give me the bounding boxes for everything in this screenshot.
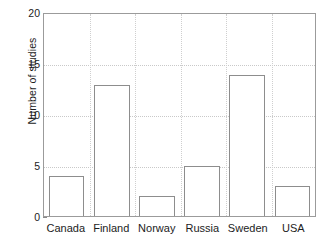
bar-norway[interactable] [139,196,175,216]
bar-chart-figure: Number of studies 20 15 10 5 0 Canada Fi… [0,0,332,248]
x-tick-label-russia: Russia [180,222,226,235]
y-tick-mark-0 [43,217,47,218]
y-tick-label-20: 20 [10,8,40,18]
y-tick-label-15: 15 [10,59,40,69]
x-tick-label-norway: Norway [134,222,180,235]
bar-usa[interactable] [275,186,311,216]
bar-russia[interactable] [184,166,220,217]
gridline-vertical-4 [226,14,227,216]
bar-sweden[interactable] [229,75,265,216]
gridline-horizontal-10 [44,116,315,117]
x-tick-label-usa: USA [271,222,317,235]
gridline-vertical-1 [90,14,91,216]
y-tick-label-0: 0 [10,212,40,222]
y-tick-label-10: 10 [10,110,40,120]
gridline-vertical-2 [135,14,136,216]
bar-finland[interactable] [94,85,130,216]
gridline-vertical-5 [272,14,273,216]
gridline-vertical-3 [181,14,182,216]
bar-canada[interactable] [49,176,85,216]
gridline-horizontal-5 [44,167,315,168]
gridline-horizontal-15 [44,65,315,66]
x-tick-label-finland: Finland [89,222,135,235]
x-tick-label-sweden: Sweden [225,222,271,235]
x-tick-label-canada: Canada [43,222,89,235]
y-tick-label-5: 5 [10,161,40,171]
plot-area [43,13,316,217]
y-axis-title: Number of studies [24,1,40,161]
